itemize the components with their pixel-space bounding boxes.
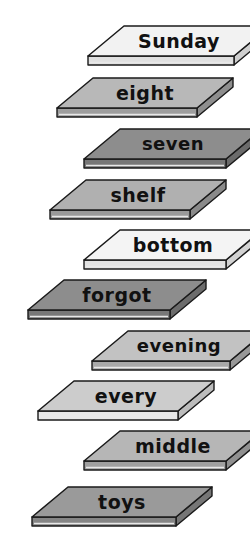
word-slab[interactable]: eight [57,78,233,117]
slab-word-label: shelf [110,184,165,206]
slab-front-face [88,56,234,65]
slab-stack-illustration: Sundayeightsevenshelfbottomforgotevening… [0,0,250,549]
slab-word-label: seven [142,133,204,154]
illustration-canvas: Sundayeightsevenshelfbottomforgotevening… [0,0,250,549]
slab-word-label: Sunday [138,30,220,52]
slab-word-label: evening [137,335,221,356]
slab-front-face [92,361,230,370]
slab-word-label: toys [98,491,146,513]
slab-word-label: forgot [82,284,151,306]
word-slab[interactable]: forgot [28,280,206,319]
slab-front-face [57,108,197,117]
slab-front-face [32,517,176,526]
word-slab[interactable]: toys [32,487,212,526]
word-slab[interactable]: bottom [84,230,250,269]
slab-front-face [50,210,190,219]
slab-word-label: bottom [133,234,214,256]
word-slab[interactable]: every [38,381,214,420]
slab-word-label: middle [135,435,211,457]
word-slab[interactable]: middle [84,431,250,470]
slab-word-label: every [95,385,158,407]
slab-front-face [84,260,226,269]
word-slab[interactable]: seven [84,129,250,168]
slab-word-label: eight [116,82,174,104]
slab-front-face [84,461,226,470]
slab-front-face [38,411,178,420]
word-slab[interactable]: evening [92,331,250,370]
word-slab[interactable]: Sunday [88,26,250,65]
slab-front-face [28,310,170,319]
slab-front-face [84,159,226,168]
word-slab[interactable]: shelf [50,180,226,219]
